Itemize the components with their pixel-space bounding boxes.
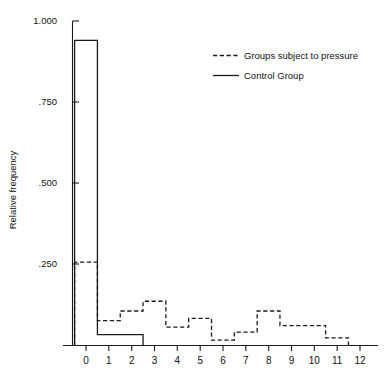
y-tick-label-500: .500 bbox=[39, 177, 58, 188]
y-tick-labels: 1.000 .750 .500 .250 bbox=[33, 15, 57, 269]
legend-label-groups-subject-to-pressure: Groups subject to pressure bbox=[244, 50, 358, 61]
x-tick-label-9: 9 bbox=[289, 355, 295, 366]
series-groups-subject-to-pressure bbox=[75, 262, 349, 345]
x-tick-labels: 0 1 2 3 4 5 6 7 8 9 10 11 12 bbox=[83, 355, 366, 366]
y-tick-label-250: .250 bbox=[39, 258, 58, 269]
x-tick-label-1: 1 bbox=[106, 355, 112, 366]
series-control-group bbox=[75, 40, 143, 345]
x-tick-label-8: 8 bbox=[266, 355, 272, 366]
legend-label-control-group: Control Group bbox=[244, 70, 304, 81]
x-tick-label-0: 0 bbox=[83, 355, 89, 366]
x-tick-label-5: 5 bbox=[197, 355, 203, 366]
y-tick-label-750: .750 bbox=[39, 96, 58, 107]
y-tick-label-1000: 1.000 bbox=[33, 15, 57, 26]
x-tick-label-6: 6 bbox=[220, 355, 226, 366]
x-tick-label-7: 7 bbox=[243, 355, 249, 366]
x-tick-label-4: 4 bbox=[175, 355, 181, 366]
chart-svg: Relative frequency 1.000 .750 .500 .250 bbox=[0, 0, 386, 376]
x-tick-label-3: 3 bbox=[152, 355, 158, 366]
y-axis-label: Relative frequency bbox=[7, 150, 18, 229]
x-tick-label-12: 12 bbox=[354, 355, 366, 366]
x-tick-label-10: 10 bbox=[309, 355, 321, 366]
x-axis bbox=[63, 346, 378, 352]
x-tick-label-2: 2 bbox=[129, 355, 135, 366]
relative-frequency-histogram: Relative frequency 1.000 .750 .500 .250 bbox=[0, 0, 386, 376]
y-axis bbox=[73, 21, 80, 345]
chart-legend: Groups subject to pressure Control Group bbox=[213, 50, 358, 81]
x-tick-label-11: 11 bbox=[332, 355, 343, 366]
